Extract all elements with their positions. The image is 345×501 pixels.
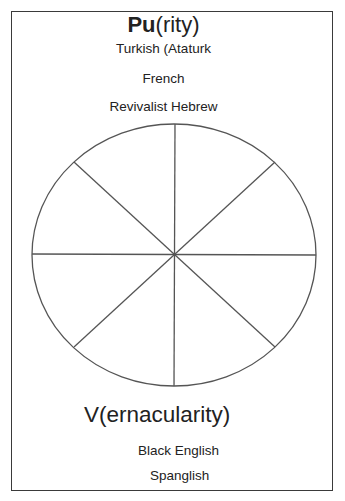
vernacularity-example-black-english: Black English [138,443,219,459]
vernacularity-example-spanglish: Spanglish [150,468,209,484]
vernacularity-label: V(ernacularity) [84,401,230,428]
